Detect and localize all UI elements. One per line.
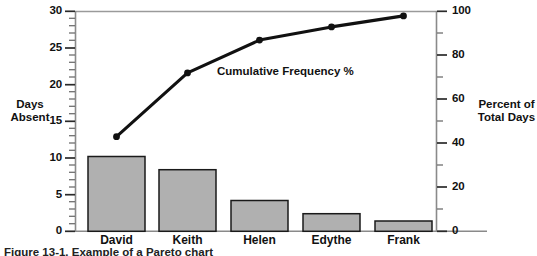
left-tick-30: 30 [24,4,62,16]
data-point-david [113,133,120,140]
right-tick-40: 40 [452,136,488,148]
left-tick-0: 0 [24,224,62,236]
cumulative-frequency-annotation: Cumulative Frequency % [217,65,354,77]
bar-group [88,157,432,232]
right-tick-80: 80 [452,48,488,60]
right-tick-100: 100 [452,4,488,16]
right-axis-title: Percent of Total Days [476,98,537,123]
data-point-edythe [328,24,335,31]
category-label-david: David [88,233,145,247]
figure-caption: Figure 13-1. Example of a Pareto chart [4,246,334,256]
left-tick-25: 25 [24,41,62,53]
category-label-edythe: Edythe [303,233,360,247]
bar-helen [231,201,288,232]
bar-keith [159,170,216,232]
category-label-keith: Keith [159,233,216,247]
category-label-helen: Helen [231,233,288,247]
bar-frank [375,221,432,231]
right-tick-0: 0 [452,224,488,236]
category-label-frank: Frank [375,233,432,247]
left-axis-title: Days Absent [0,98,60,123]
left-tick-10: 10 [24,151,62,163]
right-minor-ticks [437,33,443,209]
right-tick-20: 20 [452,180,488,192]
bar-edythe [303,214,360,232]
left-tick-20: 20 [24,78,62,90]
left-major-ticks [65,11,75,231]
data-point-keith [184,70,191,77]
data-point-frank [400,13,407,20]
bar-david [88,157,145,232]
left-tick-5: 5 [24,188,62,200]
data-point-helen [256,37,263,44]
